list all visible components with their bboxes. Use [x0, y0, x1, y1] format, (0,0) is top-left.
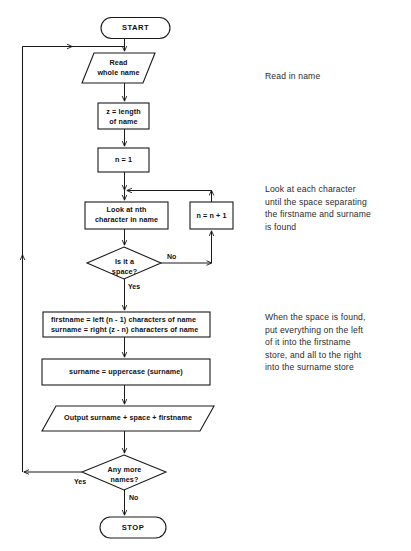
node-is-space — [87, 247, 161, 279]
annotation-split-explanation: When the space is found, put everything … — [265, 311, 411, 374]
annotation-read-in-name: Read in name — [265, 70, 405, 83]
node-start — [101, 18, 170, 39]
annotation-loop-explanation: Look at each character until the space s… — [265, 183, 411, 233]
node-read — [82, 53, 155, 83]
edge-label-more-no: No — [129, 494, 138, 502]
flowchart-canvas — [0, 0, 411, 551]
node-any-more — [82, 455, 166, 490]
edge-label-more-yes: Yes — [74, 478, 86, 486]
edge-label-space-no: No — [167, 253, 176, 261]
node-increment — [190, 202, 233, 229]
node-output — [42, 406, 214, 431]
node-init-n — [98, 148, 149, 172]
node-look-char — [85, 202, 168, 229]
node-split — [43, 312, 210, 337]
node-stop — [100, 517, 166, 538]
node-length — [98, 103, 149, 129]
node-uppercase — [42, 359, 210, 385]
edge-label-space-yes: Yes — [128, 283, 140, 291]
